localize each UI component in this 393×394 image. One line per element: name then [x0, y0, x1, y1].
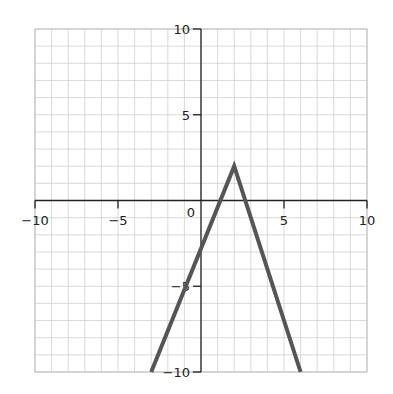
x-tick-label: 10 — [359, 213, 376, 228]
coordinate-plane: −10−5510105−5−100 — [0, 0, 393, 394]
y-tick-label: 10 — [173, 22, 190, 37]
x-tick-label: 5 — [280, 213, 288, 228]
x-tick-label: −10 — [21, 213, 48, 228]
y-tick-label: −10 — [163, 365, 190, 380]
origin-label: 0 — [187, 205, 195, 220]
x-tick-label: −5 — [108, 213, 127, 228]
y-tick-label: 5 — [182, 108, 190, 123]
